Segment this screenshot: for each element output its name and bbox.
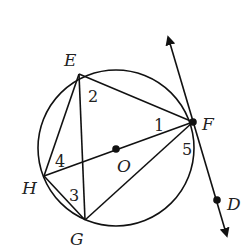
angle-label-3: 3 bbox=[69, 186, 79, 205]
angle-label-5: 5 bbox=[182, 140, 192, 159]
segment-gf bbox=[85, 122, 193, 220]
point-d bbox=[213, 196, 221, 204]
angle-label-4: 4 bbox=[55, 152, 65, 171]
point-labels: E F H G O D bbox=[21, 50, 241, 249]
label-g: G bbox=[70, 229, 84, 249]
angle-label-2: 2 bbox=[88, 87, 98, 106]
label-h: H bbox=[21, 178, 38, 198]
point-o bbox=[112, 145, 120, 153]
geometry-diagram: E F H G O D 1 2 3 4 5 bbox=[0, 0, 247, 251]
angle-labels: 1 2 3 4 5 bbox=[55, 87, 192, 205]
label-f: F bbox=[201, 114, 215, 134]
segment-eg bbox=[79, 74, 85, 220]
label-e: E bbox=[63, 50, 77, 70]
label-d: D bbox=[226, 194, 241, 214]
angle-label-1: 1 bbox=[154, 116, 164, 135]
point-f bbox=[189, 118, 197, 126]
label-o: O bbox=[117, 156, 131, 176]
